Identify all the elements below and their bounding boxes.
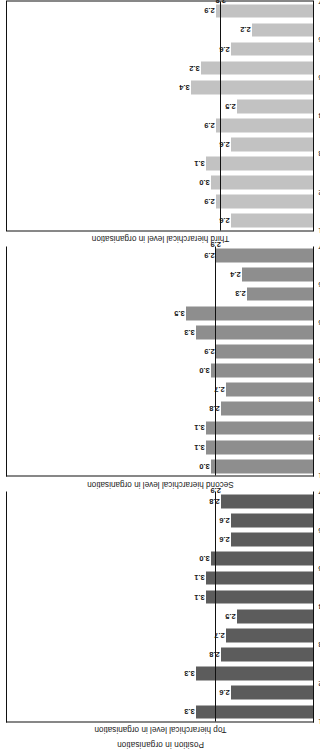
bar-slot: 2.7 (7, 625, 308, 644)
bar-value-label: 2.6 (220, 216, 231, 225)
bar-slot: 3.3 (7, 702, 308, 721)
bar-value-label: 2.5 (225, 101, 236, 110)
bar[interactable] (206, 440, 308, 454)
bar[interactable] (196, 325, 308, 339)
bar-series-third-level: 2.62.93.03.12.62.92.53.43.22.62.22.9 (7, 1, 308, 230)
bar-value-label: 2.2 (240, 25, 251, 34)
bar[interactable] (231, 42, 308, 56)
bar-slot: 3.1 (7, 418, 308, 437)
bar-value-label: 3.5 (174, 308, 185, 317)
bar-slot: 2.8 (7, 399, 308, 418)
bar-value-label: 3.3 (184, 707, 195, 716)
bar-slot: 2.9 (7, 192, 308, 211)
bar-value-label: 2.9 (204, 6, 215, 15)
grouped-bar-chart: Position in organisation Top hierarchica… (6, 0, 308, 753)
outer-axis-label: Position in organisation (6, 737, 308, 751)
bar[interactable] (211, 175, 308, 189)
bar-value-label: 2.6 (220, 44, 231, 53)
bar-value-label: 2.9 (204, 251, 215, 260)
bar[interactable] (206, 571, 308, 585)
bar[interactable] (206, 421, 308, 435)
bar-value-label: 3.1 (194, 592, 205, 601)
bar-value-label: 2.8 (209, 496, 220, 505)
bar-value-label: 3.1 (194, 442, 205, 451)
bar[interactable] (196, 666, 308, 680)
bar[interactable] (221, 494, 308, 508)
bar-slot: 3.1 (7, 153, 308, 172)
bar[interactable] (216, 194, 308, 208)
bar[interactable] (226, 628, 308, 642)
bar-value-label: 3.0 (199, 178, 210, 187)
bar[interactable] (247, 287, 308, 301)
bar-value-label: 2.9 (204, 197, 215, 206)
bar-slot: 2.3 (7, 284, 308, 303)
bar-value-label: 3.0 (199, 366, 210, 375)
bar[interactable] (231, 213, 308, 227)
bar-slot: 2.7 (7, 380, 308, 399)
bar-slot: 2.8 (7, 644, 308, 663)
bar[interactable] (252, 23, 308, 37)
bar-value-label: 2.7 (215, 385, 226, 394)
bar-value-label: 3.3 (184, 327, 195, 336)
mean-value-label: 2.8 (216, 0, 227, 4)
bar-value-label: 3.1 (194, 573, 205, 582)
bar[interactable] (211, 459, 308, 473)
bar-slot: 3.3 (7, 664, 308, 683)
bar-slot: 2.9 (7, 341, 308, 360)
bar-slot: 3.1 (7, 437, 308, 456)
panel-title-text: Third hierarchical level in organisation (91, 234, 228, 243)
bar[interactable] (221, 401, 308, 415)
bar[interactable] (216, 248, 308, 262)
bar[interactable] (216, 344, 308, 358)
bar[interactable] (242, 267, 308, 281)
bar-slot: 3.0 (7, 172, 308, 191)
bar[interactable] (216, 118, 308, 132)
bar-slot: 2.6 (7, 211, 308, 230)
panel-title-top-level: Top hierarchical level in organisation (6, 722, 308, 737)
bar[interactable] (196, 705, 308, 719)
bar[interactable] (226, 382, 308, 396)
plot-area-third-level: 2.62.93.03.12.62.92.53.43.22.62.22.92.81… (6, 0, 308, 231)
bar-slot: 3.1 (7, 587, 308, 606)
bar-slot: 3.2 (7, 58, 308, 77)
bar-value-label: 3.0 (199, 554, 210, 563)
bar[interactable] (237, 99, 309, 113)
bar[interactable] (211, 363, 308, 377)
bar-slot: 2.9 (7, 1, 308, 20)
bar[interactable] (191, 80, 308, 94)
bar-value-label: 2.6 (220, 139, 231, 148)
bar-value-label: 3.1 (194, 423, 205, 432)
panel-second-level: Second hierarchical level in organisatio… (6, 246, 308, 492)
bar-slot: 2.9 (7, 246, 308, 265)
chart-panels: Top hierarchical level in organisation3.… (6, 0, 308, 737)
bar-value-label: 2.4 (230, 270, 241, 279)
bar-value-label: 2.6 (220, 516, 231, 525)
bar[interactable] (201, 61, 308, 75)
bar-slot: 3.0 (7, 456, 308, 475)
plot-area-top-level: 3.32.63.32.82.72.53.13.13.02.62.62.82.91… (6, 491, 308, 722)
bar-value-label: 2.9 (204, 346, 215, 355)
bar[interactable] (206, 590, 308, 604)
bar[interactable] (186, 306, 309, 320)
bar-value-label: 2.7 (215, 630, 226, 639)
bar-value-label: 2.6 (220, 688, 231, 697)
panel-title-text: Top hierarchical level in organisation (94, 725, 226, 734)
bar-value-label: 3.0 (199, 461, 210, 470)
bar[interactable] (216, 4, 308, 18)
bar[interactable] (237, 609, 309, 623)
bar[interactable] (221, 647, 308, 661)
bar-slot: 2.8 (7, 491, 308, 510)
bar[interactable] (231, 137, 308, 151)
bar[interactable] (231, 532, 308, 546)
bar[interactable] (211, 551, 308, 565)
bar-slot: 2.9 (7, 115, 308, 134)
bar[interactable] (231, 685, 308, 699)
bar-slot: 2.6 (7, 510, 308, 529)
bar[interactable] (206, 156, 308, 170)
bar-value-label: 2.6 (220, 535, 231, 544)
bar-slot: 3.3 (7, 322, 308, 341)
bar-value-label: 3.2 (189, 63, 200, 72)
bar[interactable] (231, 513, 308, 527)
bar-slot: 2.5 (7, 606, 308, 625)
panel-third-level: Third hierarchical level in organisation… (6, 0, 308, 246)
